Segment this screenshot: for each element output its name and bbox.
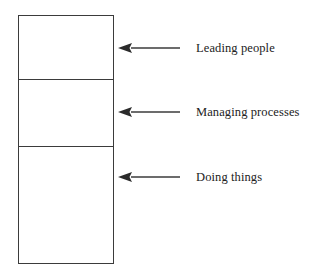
callout-label-doing-things: Doing things xyxy=(196,171,262,184)
callout-label-leading-people: Leading people xyxy=(196,42,275,55)
stack-segment-bottom xyxy=(19,147,113,265)
left-arrow-icon xyxy=(118,171,180,183)
left-arrow-icon xyxy=(118,42,180,54)
stack-segment-middle xyxy=(19,80,113,147)
stacked-block xyxy=(18,15,114,264)
callout-doing-things: Doing things xyxy=(118,168,262,186)
callout-label-managing-processes: Managing processes xyxy=(196,106,300,119)
callout-managing-processes: Managing processes xyxy=(118,103,300,121)
diagram-canvas: Leading people Managing processes Doing … xyxy=(0,0,324,276)
callout-leading-people: Leading people xyxy=(118,39,275,57)
left-arrow-icon xyxy=(118,106,180,118)
stack-segment-top xyxy=(19,16,113,80)
